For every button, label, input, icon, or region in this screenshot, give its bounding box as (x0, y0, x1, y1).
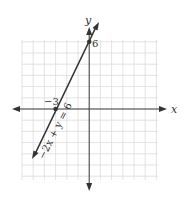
y-intercept-point (87, 40, 91, 44)
x-axis-right-arrow-icon (159, 106, 167, 112)
coordinate-plane: y x −3 6 −2x + y = 6 (0, 0, 185, 198)
y-axis-label: y (84, 14, 92, 27)
y-intercept-label: 6 (92, 38, 98, 49)
x-axis-left-arrow-icon (12, 106, 20, 112)
x-intercept-label: −3 (44, 96, 59, 107)
x-axis-label: x (171, 103, 178, 116)
line-upper-arrow-icon (93, 22, 100, 31)
x-intercept-point (53, 107, 57, 111)
y-axis-down-arrow-icon (86, 183, 92, 191)
y-axis-up-arrow-icon (86, 27, 92, 35)
